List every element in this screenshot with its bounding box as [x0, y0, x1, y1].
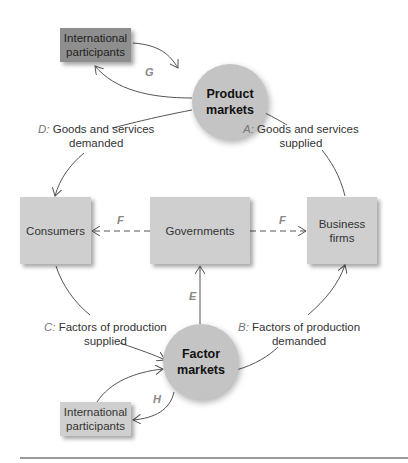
- consumers-box: Consumers: [20, 197, 91, 264]
- international-participants-bottom-box: International participants: [60, 402, 131, 436]
- flow-f-right-letter: F: [279, 214, 286, 226]
- international-participants-bottom-label: International participants: [60, 405, 131, 433]
- flow-c-line2: supplied: [84, 335, 127, 347]
- flow-b-line1: Factors of production: [252, 321, 360, 333]
- flow-a-label: A: Goods and services supplied: [243, 122, 359, 150]
- international-participants-top-label: International participants: [60, 31, 131, 59]
- flow-a-letter: A:: [243, 123, 254, 135]
- flow-f-left-letter: F: [117, 214, 124, 226]
- governments-box: Governments: [150, 197, 250, 264]
- flow-a-line2: supplied: [279, 137, 322, 149]
- flow-b-letter: B:: [238, 321, 249, 333]
- flow-c-letter: C:: [44, 321, 56, 333]
- international-participants-top-box: International participants: [60, 28, 131, 62]
- flow-d-line2: demanded: [69, 137, 123, 149]
- flow-e-letter: E: [189, 290, 196, 302]
- governments-label: Governments: [165, 224, 234, 238]
- flow-a-line1: Goods and services: [257, 123, 359, 135]
- flow-c-line1: Factors of production: [59, 321, 167, 333]
- flow-d-line1: Goods and services: [53, 123, 155, 135]
- consumers-label: Consumers: [26, 224, 85, 238]
- product-markets-label: Product markets: [200, 86, 260, 118]
- business-firms-box: Business firms: [307, 197, 377, 264]
- flow-g-letter: G: [145, 66, 154, 78]
- flow-b-label: B: Factors of production demanded: [238, 320, 360, 348]
- flow-d-label: D: Goods and services demanded: [38, 122, 154, 150]
- flow-c-label: C: Factors of production supplied: [44, 320, 167, 348]
- flow-b-line2: demanded: [272, 335, 326, 347]
- factor-markets-label: Factor markets: [174, 346, 229, 378]
- business-firms-label: Business firms: [317, 217, 367, 245]
- flow-d-letter: D:: [38, 123, 50, 135]
- factor-markets-node: Factor markets: [163, 324, 239, 400]
- bottom-divider: [20, 457, 408, 459]
- flow-h-letter: H: [153, 393, 161, 405]
